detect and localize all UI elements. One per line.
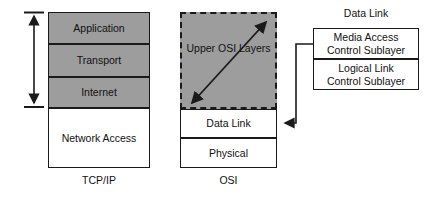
tcpip-span-arrow bbox=[24, 13, 44, 108]
osi-column-label: OSI bbox=[180, 174, 277, 186]
tcpip-layer-network-access: Network Access bbox=[48, 108, 150, 168]
tcpip-layer-application-label: Application bbox=[73, 22, 124, 34]
sublayer-llc-text: Logical Link Control Sublayer bbox=[327, 62, 405, 87]
tcpip-layer-internet: Internet bbox=[48, 77, 150, 108]
sublayer-llc-line1: Logical Link bbox=[327, 62, 405, 75]
osi-physical-layer: Physical bbox=[180, 138, 277, 168]
datalink-expansion-connector bbox=[285, 44, 313, 123]
sublayer-media-access-control-text: Media Access Control Sublayer bbox=[327, 31, 405, 56]
sublayer-mac-line2: Control Sublayer bbox=[327, 44, 405, 57]
osi-upper-layers-label-line3: Layers bbox=[239, 42, 271, 54]
sublayer-logical-link-control: Logical Link Control Sublayer bbox=[313, 59, 419, 90]
osi-upper-layers-box bbox=[180, 12, 277, 109]
osi-data-link-layer-label: Data Link bbox=[206, 117, 250, 129]
tcpip-layer-transport: Transport bbox=[48, 44, 150, 77]
sublayer-media-access-control: Media Access Control Sublayer bbox=[313, 28, 419, 59]
osi-upper-layers-label-line2: OSI bbox=[218, 42, 236, 54]
osi-physical-layer-label: Physical bbox=[209, 147, 248, 159]
tcpip-column-label: TCP/IP bbox=[48, 174, 150, 186]
sublayer-mac-line1: Media Access bbox=[327, 31, 405, 44]
osi-upper-layers-label-line1: Upper bbox=[186, 42, 215, 54]
tcpip-layer-application: Application bbox=[48, 12, 150, 44]
tcpip-layer-transport-label: Transport bbox=[77, 54, 122, 66]
osi-data-link-layer: Data Link bbox=[180, 109, 277, 138]
tcpip-layer-network-access-label: Network Access bbox=[62, 132, 137, 144]
tcpip-layer-internet-label: Internet bbox=[81, 86, 117, 98]
datalink-detail-title: Data Link bbox=[313, 7, 419, 19]
sublayer-llc-line2: Control Sublayer bbox=[327, 75, 405, 88]
network-model-comparison-diagram: Application Transport Internet Network A… bbox=[0, 0, 431, 200]
osi-upper-layers-label: Upper OSI Layers bbox=[180, 42, 277, 54]
